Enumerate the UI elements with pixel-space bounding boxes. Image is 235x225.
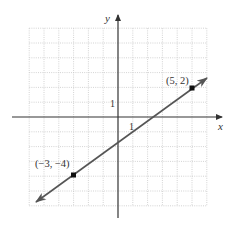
point-label-5-2: (5, 2): [166, 75, 189, 87]
y-tick-label: 1: [110, 98, 115, 109]
x-tick-label: 1: [129, 121, 134, 132]
point-5-2: [190, 86, 195, 91]
graphed-line: [36, 78, 207, 202]
coordinate-plane: x y 1 1 (5, 2) (−3, −4): [0, 0, 235, 225]
point-neg3-neg4: [71, 173, 76, 178]
point-label-neg3-neg4: (−3, −4): [35, 158, 70, 170]
y-axis-label: y: [104, 12, 110, 24]
x-axis-label: x: [217, 120, 223, 132]
